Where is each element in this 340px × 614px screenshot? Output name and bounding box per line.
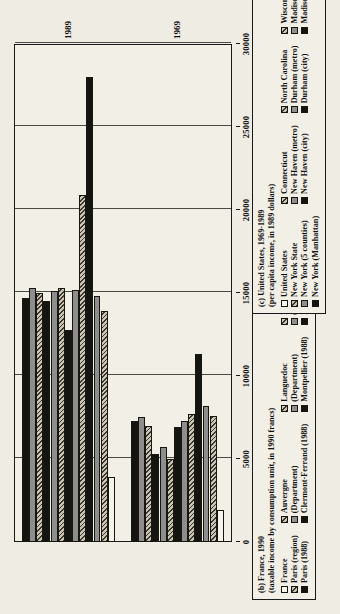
bar — [65, 330, 72, 542]
legend-swatch-gray-icon — [291, 405, 298, 412]
legend-entry: Auvergne — [280, 424, 289, 523]
legend-entry: Paris (1988) — [300, 535, 309, 593]
legend-column: Languedoc(Department)Montpellier (1988) — [280, 337, 310, 412]
bar — [138, 418, 145, 543]
legend-entry: Montpellier (1988) — [300, 337, 309, 412]
legend-entry: New York (5 counties) — [300, 216, 309, 307]
legend-entry-label: Connecticut — [280, 152, 289, 194]
legend-entry: Madison (metro) — [290, 0, 299, 34]
gridline — [15, 291, 231, 292]
legend-entry-label: Durham (city) — [300, 54, 309, 104]
bar — [101, 311, 108, 542]
bar — [181, 421, 188, 542]
legend-entry: New York State — [290, 216, 299, 307]
legend-swatch-black-icon — [301, 27, 308, 34]
legend-entry-label: France — [280, 558, 289, 583]
legend-swatch-gray-icon — [291, 318, 298, 325]
legend-swatch-black-icon — [301, 516, 308, 523]
legend-entry-label: New Haven (city) — [300, 133, 309, 193]
bar — [145, 426, 152, 542]
axis-tick-mark — [236, 458, 240, 459]
legend-entry: New Haven (city) — [300, 125, 309, 204]
bar — [22, 298, 29, 542]
bar — [43, 301, 50, 542]
legend-swatch-hatch-icon — [291, 586, 298, 593]
legend-entry-label: New Haven (metro) — [290, 125, 299, 194]
bar — [217, 510, 224, 542]
group-label-1969: 1969 — [172, 21, 182, 39]
legend-swatch-gray-icon — [291, 516, 298, 523]
bar — [51, 291, 58, 542]
legend-entry: Durham (city) — [300, 46, 309, 114]
bar — [160, 447, 167, 542]
bar — [94, 296, 101, 542]
legend-swatch-hatch-icon — [281, 405, 288, 412]
legend-entry-label: Montpellier (1988) — [300, 337, 309, 402]
legend-swatch-gray-icon — [291, 197, 298, 204]
bar — [58, 288, 65, 542]
legend-entry-label: New York (5 counties) — [300, 220, 309, 297]
bar — [79, 195, 86, 542]
bar — [174, 427, 181, 542]
bar — [86, 77, 93, 542]
legend-swatch-black-icon — [301, 197, 308, 204]
legend-swatch-hatch-icon — [281, 197, 288, 204]
bar — [195, 354, 202, 542]
legend-entry: (Department) — [290, 424, 299, 523]
axis-tick-label: 5000 — [241, 450, 251, 468]
axis-tick-label: 10000 — [241, 365, 251, 387]
bar — [167, 459, 174, 542]
legend-entry: Clermont-Ferrand (1988) — [300, 424, 309, 523]
bar — [108, 477, 115, 542]
legend-entry: New Haven (metro) — [290, 125, 299, 204]
legend-entry: North Carolina — [280, 46, 289, 114]
bar — [36, 293, 43, 542]
legend-swatch-black-icon — [312, 300, 319, 307]
legend-entry: Wisconsin — [280, 0, 289, 34]
legend-column: North CarolinaDurham (metro)Durham (city… — [280, 46, 320, 114]
legend-entry-label: Auvergne — [280, 479, 289, 513]
legend-column: FranceParis (region)Paris (1988) — [280, 535, 310, 593]
bar — [72, 290, 79, 542]
legend-entry: New York (Manhattan) — [311, 216, 320, 307]
legend-swatch-hatch-icon — [281, 27, 288, 34]
legend-swatch-black-icon — [301, 318, 308, 325]
legend-entry-label: Wisconsin — [280, 0, 289, 24]
legend-entry-label: (Department) — [290, 354, 299, 402]
legend-swatch-white-icon — [281, 586, 288, 593]
legend-column: United StatesNew York StateNew York (5 c… — [280, 216, 320, 307]
legend-swatch-hatch-icon — [291, 300, 298, 307]
legend-entry-label: Madison (metro) — [290, 0, 299, 24]
legend-entry: Connecticut — [280, 125, 289, 204]
legend-swatch-gray-icon — [291, 27, 298, 34]
legend-entry: Paris (region) — [290, 535, 299, 593]
axis-tick-label: 0 — [241, 540, 251, 544]
axis-tick-mark — [236, 541, 240, 542]
axis-tick-label: 15000 — [241, 282, 251, 304]
legend-column: ConnecticutNew Haven (metro)New Haven (c… — [280, 125, 320, 204]
legend-us-title-line1: (c) United States, 1969-1989 — [257, 0, 267, 307]
legend-entry: Languedoc — [280, 337, 289, 412]
gridline — [15, 125, 231, 126]
legend-entry: France — [280, 535, 289, 593]
legend-entry: Durham (metro) — [290, 46, 299, 114]
legend-swatch-gray-icon — [291, 106, 298, 113]
axis-tick-label: 25000 — [241, 116, 251, 138]
legend-entry-label: Madison (city) — [300, 0, 309, 24]
legend-united-states: (c) United States, 1969-1989 (per capita… — [252, 0, 326, 314]
axis-tick-label: 20000 — [241, 199, 251, 221]
gridline — [15, 42, 231, 43]
legend-entry-label: Durham (metro) — [290, 46, 299, 104]
legend-column: WisconsinMadison (metro)Madison (city) — [280, 0, 320, 34]
bar — [152, 454, 159, 542]
bar — [210, 416, 217, 542]
legend-entry-label: United States — [280, 250, 289, 297]
legend-swatch-hatch-icon — [281, 318, 288, 325]
legend-entry-label: New York State — [290, 243, 299, 297]
legend-swatch-black-icon — [301, 405, 308, 412]
axis-tick-mark — [236, 209, 240, 210]
legend-us-title-line2: (per capita income, in 1989 dollars) — [267, 0, 277, 307]
legend-entry-label: (Department) — [290, 465, 299, 513]
bar — [188, 414, 195, 542]
legend-us-columns: United StatesNew York StateNew York (5 c… — [280, 0, 320, 307]
